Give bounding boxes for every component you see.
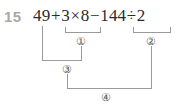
step-label-4: ④ [98,93,114,104]
step-label-2: ② [143,37,159,48]
step-label-3: ③ [59,65,75,76]
step-label-1: ① [73,37,89,48]
worksheet-problem: 15 49+3×8−144÷2 ① ② ③ ④ [0,0,179,110]
order-of-operations-brackets [0,0,179,110]
bracket-step-2 [134,27,171,33]
bracket-step-1 [66,27,101,33]
